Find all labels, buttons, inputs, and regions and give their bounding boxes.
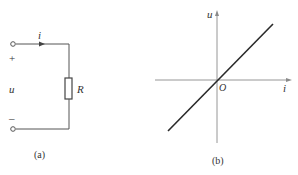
characteristic-line	[168, 24, 273, 131]
vi-characteristic-graph: u i O (b)	[155, 8, 292, 167]
plus-label: +	[9, 52, 15, 64]
resistor-label: R	[76, 83, 84, 95]
top-terminal-icon	[11, 42, 16, 47]
circuit-diagram: i + u – R (a)	[8, 29, 84, 161]
caption-b: (b)	[212, 155, 224, 167]
caption-a: (a)	[34, 149, 45, 161]
x-axis-arrow-icon	[286, 78, 292, 82]
x-axis-label: i	[283, 82, 286, 94]
current-arrow-icon	[39, 42, 45, 47]
resistor	[65, 78, 72, 99]
y-axis-label: u	[207, 8, 213, 20]
minus-label: –	[8, 112, 15, 124]
origin-label: O	[219, 82, 226, 93]
current-label: i	[38, 29, 41, 41]
voltage-label: u	[9, 83, 15, 95]
bottom-terminal-icon	[11, 127, 16, 132]
y-axis-arrow-icon	[215, 10, 219, 16]
diagram-canvas: i + u – R (a) u i O (b)	[0, 0, 298, 175]
